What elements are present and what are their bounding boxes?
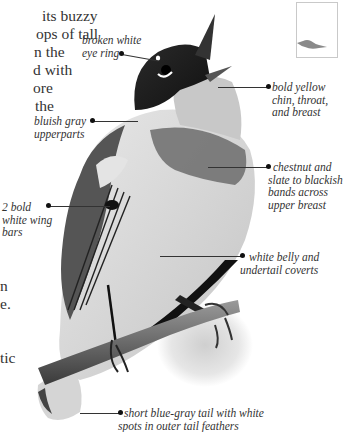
callout-dot [90, 118, 95, 123]
leader-line-tail [80, 413, 120, 414]
leader-line-wing-bars [50, 206, 110, 207]
label-chin-throat-breast: bold yellow chin, throat, and breast [272, 81, 328, 119]
label-breast-bands: chestnut and slate to blackish bands acr… [268, 161, 343, 211]
callout-dot [240, 253, 245, 258]
leader-line-breast-bands [208, 167, 268, 168]
label-belly: white belly and undertail coverts [246, 251, 319, 276]
leader-line-belly [160, 256, 242, 257]
leader-line-upperparts [94, 121, 138, 122]
leader-line-chin [218, 87, 268, 88]
callout-dot [266, 84, 271, 89]
label-eye-ring: broken white eye ring [82, 34, 141, 59]
label-upperparts: bluish gray upperparts [34, 115, 86, 140]
label-wing-bars: 2 bold white wing bars [2, 201, 52, 239]
label-tail: short blue-gray tail with white spots in… [124, 407, 264, 432]
callout-dot [118, 410, 123, 415]
